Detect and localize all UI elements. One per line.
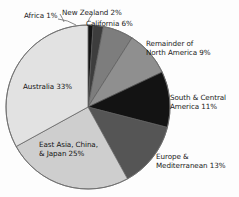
slice-label-remainder-line2: North America 9%	[146, 48, 210, 57]
slice-label-europe-line2: Mediterranean 13%	[156, 161, 225, 170]
slice-label-south-central-america: South & Central America 11%	[170, 93, 226, 111]
slice-label-remainder-line1: Remainder of	[146, 39, 210, 48]
slice-label-east-asia: East Asia, China, & Japan 25%	[39, 140, 98, 158]
slice-label-australia: Australia 33%	[23, 82, 72, 91]
slice-label-europe-line1: Europe &	[156, 152, 225, 161]
slice-label-california: California 6%	[86, 19, 133, 28]
pie-chart: Africa 1% New Zealand 2% California 6% R…	[0, 0, 239, 197]
slice-label-europe-mediterranean: Europe & Mediterranean 13%	[156, 152, 225, 170]
slice-label-south-central-line1: South & Central	[170, 93, 226, 102]
slice-label-east-asia-line1: East Asia, China,	[39, 140, 98, 149]
slice-label-africa: Africa 1%	[24, 11, 57, 20]
slice-label-new-zealand: New Zealand 2%	[62, 8, 122, 17]
slice-label-east-asia-line2: & Japan 25%	[39, 149, 98, 158]
slice-label-south-central-line2: America 11%	[170, 102, 226, 111]
slice-label-remainder-north-america: Remainder of North America 9%	[146, 39, 210, 57]
leader-line-africa	[58, 19, 76, 25]
